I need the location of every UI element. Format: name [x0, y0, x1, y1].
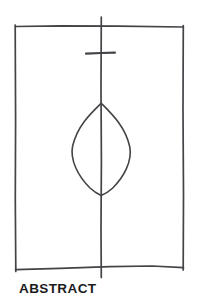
frame-right-line: [183, 26, 184, 271]
line-drawing-canvas: [0, 0, 198, 303]
lens-left-arc: [72, 103, 101, 195]
figure-caption: ABSTRACT: [19, 281, 96, 297]
horizontal-tick-mark: [86, 53, 115, 54]
abstract-figure: ABSTRACT: [0, 0, 198, 303]
lens-right-arc: [101, 103, 130, 195]
frame-top-line: [16, 26, 184, 27]
frame-left-line: [15, 25, 16, 272]
frame-group: [15, 25, 183, 272]
frame-bottom-line: [16, 266, 184, 270]
